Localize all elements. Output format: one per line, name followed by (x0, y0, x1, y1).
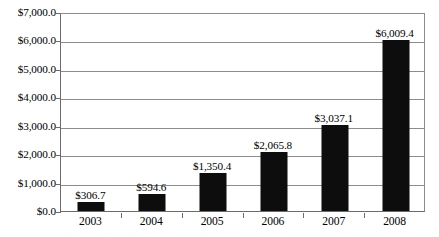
x-axis-tick (182, 213, 183, 218)
y-axis-label: $2,000.0 (18, 149, 56, 160)
y-axis-label: $6,000.0 (18, 35, 56, 46)
x-axis-tick (121, 213, 122, 218)
bar[interactable] (321, 125, 348, 211)
cut-off-caption (0, 232, 439, 237)
x-axis-label: 2007 (303, 215, 364, 228)
bar-value-label: $3,037.1 (315, 112, 353, 124)
y-axis-label: $7,000.0 (18, 7, 56, 18)
bar-slot (365, 14, 426, 211)
bar-chart: $0.0$1,000.0$2,000.0$3,000.0$4,000.0$5,0… (0, 0, 439, 237)
bar-slot (183, 14, 244, 211)
bar[interactable] (382, 40, 409, 211)
bar-slot (61, 14, 122, 211)
x-axis-tick (364, 213, 365, 218)
bar-value-label: $1,350.4 (193, 160, 231, 172)
y-axis-label: $5,000.0 (18, 64, 56, 75)
plot-area (60, 13, 425, 212)
bar-value-label: $306.7 (75, 189, 105, 201)
bar[interactable] (200, 173, 227, 211)
bar-value-label: $594.6 (136, 181, 166, 193)
bar[interactable] (139, 194, 166, 211)
x-axis-label: 2004 (121, 215, 182, 228)
x-axis-label: 2005 (182, 215, 243, 228)
bar[interactable] (78, 202, 105, 211)
y-axis-label: $4,000.0 (18, 92, 56, 103)
bar-value-label: $6,009.4 (375, 27, 413, 39)
x-axis-label: 2003 (60, 215, 121, 228)
x-axis-label: 2006 (243, 215, 304, 228)
bar-slot (244, 14, 305, 211)
x-axis-label: 2008 (364, 215, 425, 228)
bar-value-label: $2,065.8 (254, 139, 292, 151)
bar[interactable] (260, 152, 287, 211)
y-axis-label: $1,000.0 (18, 178, 56, 189)
y-axis-label: $0.0 (37, 206, 56, 217)
x-axis-tick (303, 213, 304, 218)
y-axis-tick (56, 212, 61, 213)
x-axis-tick (243, 213, 244, 218)
y-axis-label: $3,000.0 (18, 121, 56, 132)
